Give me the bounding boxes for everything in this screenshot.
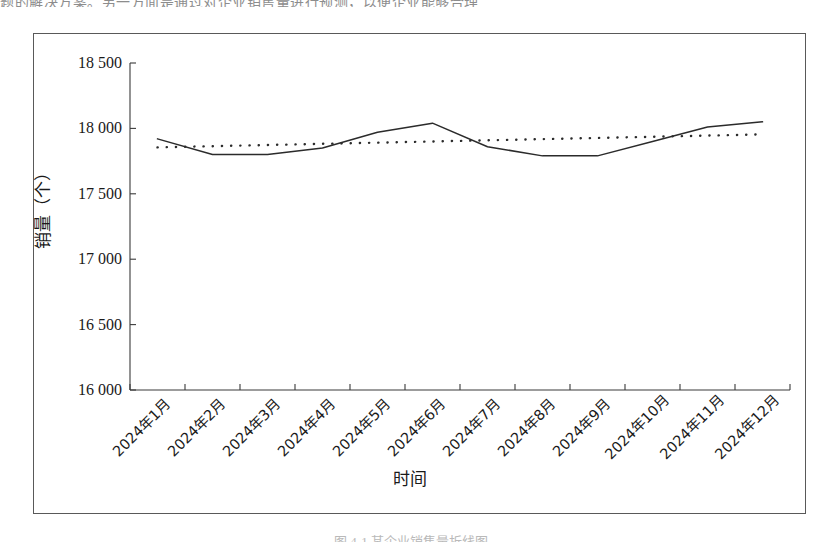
x-axis-title: 时间 <box>330 468 490 490</box>
y-axis-tick-label: 16 500 <box>44 317 122 333</box>
y-axis-tick-label: 17 500 <box>44 186 122 202</box>
page-top-clipped-text: 题的解决方案。另一方面是通过对企业销售量进行预测，以便企业能够合理 <box>0 0 822 7</box>
y-axis-tick-label: 17 000 <box>44 251 122 267</box>
y-axis-tick-label: 16 000 <box>44 382 122 398</box>
y-axis-tick-label: 18 500 <box>44 55 122 71</box>
figure-frame <box>33 33 806 514</box>
figure-caption: 图 4-1 某企业销售量折线图 <box>0 531 822 542</box>
y-axis-tick-label: 18 000 <box>44 120 122 136</box>
